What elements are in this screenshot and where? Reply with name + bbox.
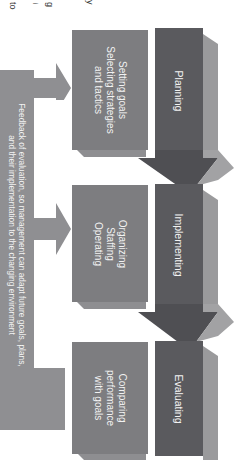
implementing-activities-box: Organizing Staffing Operating (72, 185, 148, 302)
management-process-diagram: to i g y Feedback of evaluation, so mana… (0, 0, 235, 463)
page-fragment-text: i (32, 3, 39, 5)
activity-item: Comparing (116, 370, 128, 426)
planning-header: Planning (155, 28, 203, 153)
activity-item: Organizing (116, 219, 128, 267)
implementing-header: Implementing (155, 184, 203, 306)
feedback-bar-return (0, 368, 65, 430)
activity-item: with goals (92, 370, 104, 426)
activity-item: performance (104, 370, 116, 426)
activity-item: Staffing (104, 219, 116, 267)
evaluating-header: Evaluating (155, 341, 203, 456)
page-fragment-text: g (45, 2, 55, 7)
spacer (34, 100, 72, 200)
planning-header-side (203, 34, 218, 154)
page-fragment-text: to (8, 2, 18, 10)
activity-item: Setting goals (116, 46, 128, 133)
implementing-header-label: Implementing (173, 213, 186, 276)
arrow-implementing-to-evaluating-icon (138, 304, 234, 346)
planning-activities-text: Setting goals Selecting strategies and t… (92, 46, 128, 133)
implementing-box-shadow (76, 301, 146, 309)
evaluating-activities-box: Comparing performance with goals (72, 342, 148, 454)
activity-item: Operating (92, 219, 104, 267)
planning-activities-box: Setting goals Selecting strategies and t… (72, 30, 148, 150)
implementing-activities-text: Organizing Staffing Operating (92, 219, 128, 267)
activity-item: and tactics (92, 46, 104, 133)
implementing-header-side (203, 190, 218, 310)
evaluating-header-label: Evaluating (173, 374, 186, 423)
planning-box-shadow (76, 149, 146, 157)
feedback-arrow-to-implementing-icon (0, 198, 72, 260)
page-fragment-text: y (85, 0, 95, 5)
planning-header-label: Planning (173, 70, 186, 111)
activity-item: Selecting strategies (104, 46, 116, 133)
evaluating-header-side (203, 346, 218, 460)
evaluating-activities-text: Comparing performance with goals (92, 370, 128, 426)
